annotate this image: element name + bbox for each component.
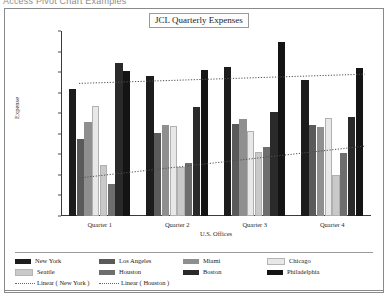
legend-item[interactable]: Boston bbox=[183, 268, 221, 276]
y-axis-line bbox=[61, 31, 62, 216]
y-tick-mark bbox=[58, 51, 61, 52]
bar[interactable] bbox=[255, 152, 262, 216]
chart-title: JCL Quarterly Expenses bbox=[149, 13, 249, 28]
y-tick-mark bbox=[58, 216, 61, 217]
y-tick-mark bbox=[58, 154, 61, 155]
bar[interactable] bbox=[270, 112, 277, 216]
x-tick-label: Quarter 3 bbox=[242, 221, 267, 228]
legend-item[interactable]: Houston bbox=[99, 268, 141, 276]
bar[interactable] bbox=[247, 131, 254, 216]
legend-swatch bbox=[183, 259, 199, 264]
bar[interactable] bbox=[193, 107, 200, 216]
legend-label: Boston bbox=[203, 268, 221, 276]
bar-group bbox=[224, 31, 286, 216]
legend-trendline-marker bbox=[99, 283, 119, 284]
legend-swatch bbox=[183, 270, 199, 275]
y-tick-mark bbox=[58, 195, 61, 196]
legend-label: Chicago bbox=[289, 257, 311, 265]
legend-trendline-marker bbox=[15, 283, 35, 284]
y-tick-mark bbox=[58, 133, 61, 134]
bar[interactable] bbox=[325, 118, 332, 216]
bar[interactable] bbox=[239, 119, 246, 216]
bar[interactable] bbox=[108, 184, 115, 216]
bar[interactable] bbox=[301, 80, 308, 216]
bar[interactable] bbox=[185, 163, 192, 216]
legend-label: Los Angeles bbox=[119, 257, 151, 265]
document-top-text-strip: Access Pivot Chart Examples bbox=[0, 0, 388, 7]
x-tick-label: Quarter 4 bbox=[320, 221, 345, 228]
legend-label: Linear ( Houston ) bbox=[121, 279, 169, 287]
legend-item[interactable]: Chicago bbox=[267, 257, 311, 265]
legend-label: Seattle bbox=[37, 268, 55, 276]
bar[interactable] bbox=[177, 167, 184, 216]
legend-item[interactable]: Los Angeles bbox=[99, 257, 151, 265]
x-tick-label: Quarter 2 bbox=[165, 221, 190, 228]
legend-label: Houston bbox=[119, 268, 141, 276]
bar[interactable] bbox=[340, 153, 347, 216]
legend-label: New York bbox=[35, 257, 61, 265]
bar[interactable] bbox=[309, 125, 316, 216]
bar[interactable] bbox=[146, 76, 153, 216]
legend-swatch bbox=[267, 258, 285, 265]
bar-group bbox=[146, 31, 208, 216]
legend-label: Linear ( New York ) bbox=[37, 279, 90, 287]
chart-frame: JCL Quarterly Expenses Expense $-$1,000.… bbox=[4, 8, 384, 293]
legend-row-cities-1: New YorkLos AngelesMiamiChicago bbox=[15, 257, 373, 267]
bar[interactable] bbox=[170, 126, 177, 216]
plot-area: $-$1,000.00$2,000.00$3,000.00$4,000.00$5… bbox=[61, 31, 371, 216]
bar[interactable] bbox=[123, 71, 130, 216]
bar[interactable] bbox=[162, 125, 169, 216]
bar[interactable] bbox=[115, 63, 122, 216]
legend-item[interactable]: New York bbox=[15, 257, 61, 265]
x-tick-label: Quarter 1 bbox=[87, 221, 112, 228]
y-tick-mark bbox=[58, 92, 61, 93]
legend-row-cities-2: SeattleHoustonBostonPhiladelphia bbox=[15, 268, 373, 278]
x-axis-title: U.S. Offices bbox=[200, 230, 232, 237]
bar[interactable] bbox=[100, 165, 107, 216]
legend-item[interactable]: Philadelphia bbox=[267, 268, 320, 276]
bar[interactable] bbox=[263, 147, 270, 216]
y-tick-mark bbox=[58, 113, 61, 114]
legend-swatch bbox=[15, 269, 33, 276]
y-tick-mark bbox=[58, 72, 61, 73]
legend-bottom-rule bbox=[5, 290, 383, 291]
bar[interactable] bbox=[232, 124, 239, 217]
bar[interactable] bbox=[201, 70, 208, 216]
legend-swatch bbox=[267, 270, 283, 275]
legend-label: Miami bbox=[203, 257, 220, 265]
bar[interactable] bbox=[224, 67, 231, 216]
bar[interactable] bbox=[92, 106, 99, 216]
bar[interactable] bbox=[332, 175, 339, 216]
legend-item[interactable]: Miami bbox=[183, 257, 220, 265]
legend-item[interactable]: Linear ( New York ) bbox=[15, 279, 90, 287]
bar[interactable] bbox=[317, 127, 324, 216]
bar[interactable] bbox=[278, 42, 285, 216]
y-axis-title: Expense bbox=[13, 97, 20, 119]
legend-label: Philadelphia bbox=[287, 268, 320, 276]
legend-swatch bbox=[99, 270, 115, 275]
legend-swatch bbox=[99, 259, 115, 264]
chart-legend: New YorkLos AngelesMiamiChicago SeattleH… bbox=[15, 252, 373, 290]
bar[interactable] bbox=[69, 89, 76, 216]
bar[interactable] bbox=[84, 122, 91, 216]
bar-group bbox=[301, 31, 363, 216]
document-top-text: Access Pivot Chart Examples bbox=[3, 0, 388, 6]
bar[interactable] bbox=[348, 117, 355, 216]
bar[interactable] bbox=[154, 133, 161, 216]
legend-item[interactable]: Seattle bbox=[15, 268, 55, 276]
bar-group bbox=[69, 31, 131, 216]
legend-swatch bbox=[15, 259, 31, 264]
legend-row-trendlines: Linear ( New York )Linear ( Houston ) bbox=[15, 279, 373, 289]
y-tick-mark bbox=[58, 174, 61, 175]
y-tick-mark bbox=[58, 31, 61, 32]
legend-item[interactable]: Linear ( Houston ) bbox=[99, 279, 169, 287]
bar[interactable] bbox=[356, 68, 363, 216]
bar[interactable] bbox=[77, 139, 84, 216]
